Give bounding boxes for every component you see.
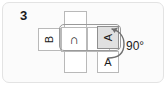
- net-cell-bottom-label: [65, 52, 86, 72]
- angle-label: 90°: [126, 40, 144, 52]
- net-cell-arch: ∩: [61, 27, 87, 52]
- net-cell-bottom: [64, 51, 87, 73]
- net-cell-b-label: B: [39, 29, 60, 50]
- arch-icon: ∩: [62, 28, 86, 51]
- net-cell-b: B: [38, 28, 61, 51]
- figure-number: 3: [20, 9, 27, 22]
- figure-root: 3 B ∩ A A 90°: [0, 0, 168, 87]
